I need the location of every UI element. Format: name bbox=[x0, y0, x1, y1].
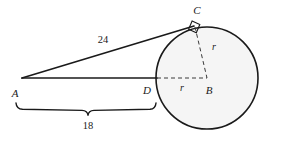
label-radius-diagonal: r bbox=[212, 41, 216, 52]
label-point-d: D bbox=[142, 84, 151, 96]
geometry-figure: A D B C 24 18 r r bbox=[0, 0, 282, 147]
measurement-brace bbox=[16, 103, 156, 115]
geometry-diagram-canvas: A D B C 24 18 r r bbox=[0, 0, 282, 147]
label-point-b: B bbox=[206, 84, 213, 96]
label-external-length: 18 bbox=[83, 120, 94, 131]
label-point-a: A bbox=[11, 87, 19, 99]
label-point-c: C bbox=[193, 4, 201, 16]
label-tangent-length: 24 bbox=[98, 34, 109, 45]
label-radius-horizontal: r bbox=[180, 82, 184, 93]
